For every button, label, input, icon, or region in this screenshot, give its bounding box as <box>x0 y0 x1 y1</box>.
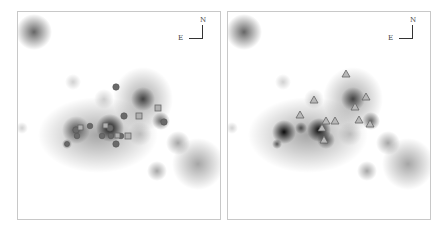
right-image-panel: N E <box>227 11 431 220</box>
north-arrow-icon <box>412 25 413 38</box>
compass-rose: N E <box>388 16 418 46</box>
east-arrow-icon <box>189 38 203 39</box>
compass-rose: N E <box>178 16 208 46</box>
north-arrow-icon <box>202 25 203 38</box>
east-label: E <box>178 34 183 42</box>
north-label: N <box>410 16 416 24</box>
north-label: N <box>200 16 206 24</box>
east-label: E <box>388 34 393 42</box>
left-image-panel: N E <box>17 11 221 220</box>
east-arrow-icon <box>399 38 413 39</box>
